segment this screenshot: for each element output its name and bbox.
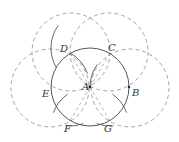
label-A: A <box>81 81 89 92</box>
label-E: E <box>41 88 50 99</box>
arc-through-G <box>112 94 126 113</box>
label-G: G <box>104 123 112 134</box>
ray-A-F <box>70 87 90 121</box>
circle-centered-B <box>91 49 169 127</box>
arc-through-E <box>51 26 58 68</box>
ray-A-C <box>90 53 110 87</box>
label-F: F <box>63 123 72 134</box>
marking-arcs <box>51 26 127 126</box>
label-D: D <box>59 43 68 54</box>
label-C: C <box>108 42 116 53</box>
ray-A-G <box>90 87 110 121</box>
circle-centered-D <box>32 13 110 91</box>
geometry-diagram: A BCDEFG <box>0 0 179 142</box>
arc-through-F <box>53 94 67 113</box>
label-B: B <box>131 87 139 98</box>
circle-centered-E <box>11 49 89 127</box>
construction-circles <box>11 13 169 127</box>
point-B-dot <box>128 86 130 88</box>
